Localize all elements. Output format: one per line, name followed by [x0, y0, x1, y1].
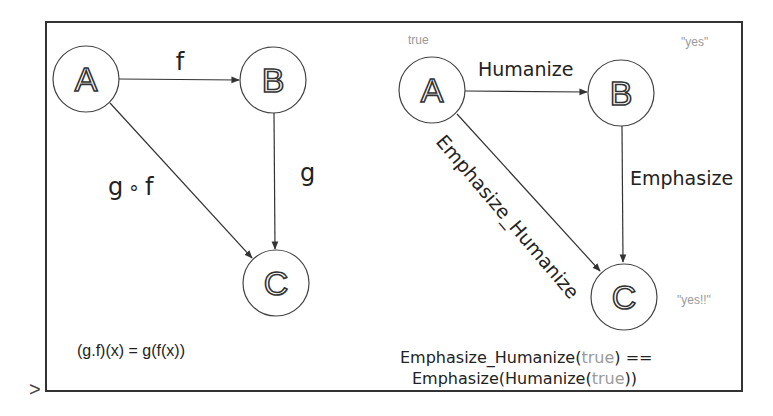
node-a-label: A	[421, 71, 444, 109]
composition-formula: (g.f)(x) = g(f(x))	[77, 342, 185, 359]
value-label-yes: "yes"	[681, 35, 708, 49]
edge-humanize	[465, 91, 587, 92]
node-c-label: C	[264, 264, 289, 302]
node-b-label: B	[262, 61, 285, 99]
svg-text:∘: ∘	[128, 176, 140, 198]
node-c: C	[591, 264, 657, 330]
edge-label-emphasize: Emphasize	[630, 167, 733, 189]
composition-diagram: > A B C f g g ∘ f (g.f)(x) = g(f(x))	[0, 0, 773, 416]
svg-text:Emphasize_Humanize(true) ==: Emphasize_Humanize(true) ==	[400, 348, 652, 368]
node-a: A	[53, 46, 119, 112]
edge-label-g: g	[300, 159, 315, 187]
edge-a-to-b	[119, 79, 239, 80]
edge-label-emphasize-humanize: Emphasize_Humanize	[431, 130, 584, 303]
equivalence-formula: Emphasize_Humanize(true) == Emphasize(Hu…	[400, 348, 652, 388]
edge-emphasize	[622, 126, 623, 262]
node-a-label: A	[75, 60, 98, 98]
left-diagram: A B C f g g ∘ f (g.f)(x) = g(f(x))	[53, 46, 315, 359]
edge-b-to-c	[274, 113, 275, 249]
edge-label-g-compose-f: g ∘ f	[108, 173, 154, 201]
value-label-yes-emphasized: "yes!!"	[677, 293, 711, 307]
edge-label-humanize: Humanize	[478, 58, 573, 80]
node-b: B	[588, 60, 654, 126]
svg-text:Emphasize(Humanize(true)): Emphasize(Humanize(true))	[412, 369, 637, 388]
node-b-label: B	[610, 74, 633, 112]
svg-text:g: g	[108, 173, 123, 201]
node-c: C	[243, 250, 309, 316]
right-diagram: true "yes" "yes!!" A B C Humanize Emphas…	[399, 33, 733, 388]
prompt-marker: >	[29, 378, 41, 400]
svg-text:f: f	[145, 173, 154, 201]
node-c-label: C	[612, 278, 637, 316]
node-a: A	[399, 57, 465, 123]
value-label-true: true	[408, 33, 429, 47]
node-b: B	[240, 47, 306, 113]
edge-label-f: f	[176, 48, 185, 76]
